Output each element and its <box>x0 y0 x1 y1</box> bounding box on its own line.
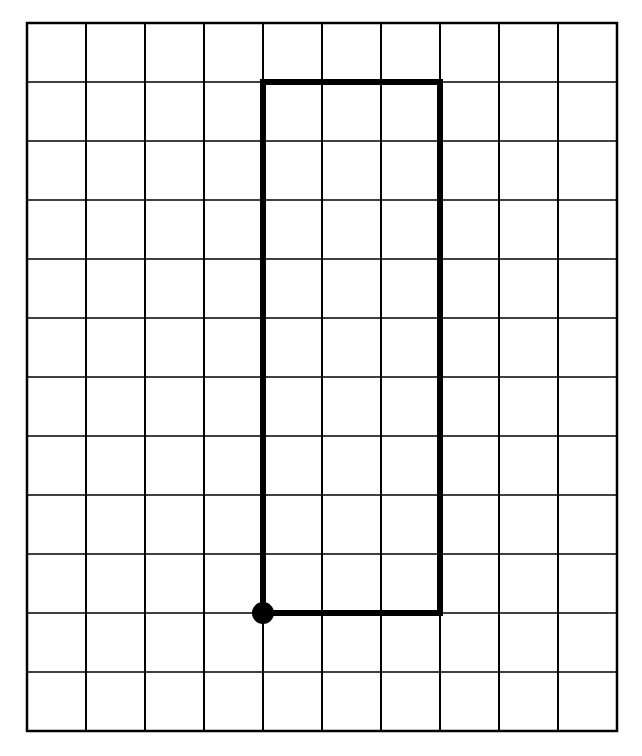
grid-diagram <box>0 0 642 756</box>
rectangle-outline <box>263 82 440 613</box>
grid-lines <box>27 23 617 731</box>
start-point-dot <box>252 602 274 624</box>
